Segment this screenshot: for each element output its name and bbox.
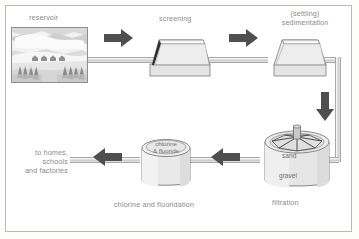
label-sedimentation: (settling) sedimentation [270, 9, 340, 27]
label-chlorination: chlorine and fluoridation [114, 200, 194, 209]
pipe-right-vertical [335, 57, 341, 162]
label-output-destination: to homes, schools and factories [8, 148, 68, 175]
filtration-tank [259, 124, 335, 196]
label-filtration: filtration [272, 198, 299, 207]
filtration-sand-label: sand [282, 152, 296, 159]
arrow-chlorination-to-output [93, 148, 123, 166]
sedimentation-tank [266, 36, 334, 78]
reservoir-illustration [11, 27, 88, 83]
screening-tank [146, 36, 214, 78]
arrow-reservoir-to-screening [104, 29, 134, 47]
arrow-sedimentation-to-filtration [316, 92, 334, 122]
arrow-screening-to-sedimentation [229, 29, 259, 47]
chlorine-fluoride-label: chlorine & fluoride [143, 140, 189, 154]
label-reservoir: reservoir [29, 13, 58, 22]
water-treatment-diagram: reservoir [0, 0, 359, 239]
arrow-filtration-to-chlorination [211, 148, 241, 166]
filtration-gravel-label: gravel [279, 172, 297, 179]
label-screening: screening [159, 14, 192, 23]
